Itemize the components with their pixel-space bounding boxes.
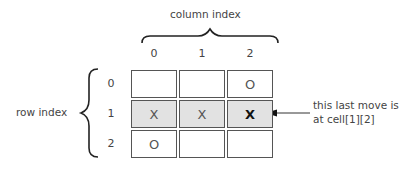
- row-index-label: row index: [16, 106, 67, 118]
- annotation-line-1: this last move is: [313, 98, 399, 112]
- cell-1-1[interactable]: X: [179, 100, 225, 128]
- cell-2-1[interactable]: [179, 130, 225, 158]
- cell-1-2-last-move[interactable]: X: [227, 100, 273, 128]
- cell-0-1[interactable]: [179, 70, 225, 98]
- column-index-label: column index: [170, 8, 241, 20]
- row-brace-icon: [81, 69, 98, 157]
- cell-1-0[interactable]: X: [131, 100, 177, 128]
- row-header-0: 0: [101, 77, 121, 90]
- annotation-line-2: at cell[1][2]: [313, 112, 399, 126]
- cell-2-2[interactable]: [227, 130, 273, 158]
- column-header-0: 0: [144, 47, 164, 60]
- last-move-annotation: this last move is at cell[1][2]: [313, 98, 399, 126]
- column-header-1: 1: [192, 47, 212, 60]
- cell-0-2[interactable]: O: [227, 70, 273, 98]
- column-brace-icon: [142, 29, 278, 43]
- cell-0-0[interactable]: [131, 70, 177, 98]
- column-header-2: 2: [240, 47, 260, 60]
- row-header-2: 2: [101, 137, 121, 150]
- cell-2-0[interactable]: O: [131, 130, 177, 158]
- row-header-1: 1: [101, 107, 121, 120]
